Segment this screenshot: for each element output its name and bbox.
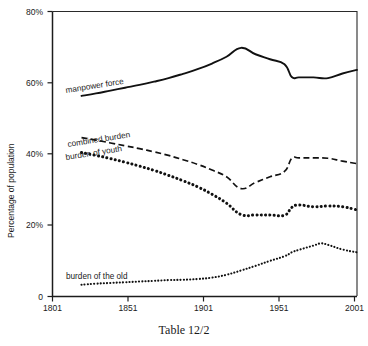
series-label-combined-burden: combined burden bbox=[67, 130, 131, 149]
figure-caption: Table 12/2 bbox=[159, 323, 210, 337]
y-axis-tick-labels: 80% 60% 40% 20% 0 bbox=[26, 7, 43, 302]
population-burden-line-chart: 80% 60% 40% 20% 0 1801 1851 1901 1951 20… bbox=[0, 0, 368, 346]
y-tick-label-60: 60% bbox=[26, 78, 43, 88]
series-path-manpower-force bbox=[82, 48, 358, 96]
x-tick-label-1801: 1801 bbox=[43, 303, 62, 313]
y-tick-label-20: 20% bbox=[26, 220, 43, 230]
series-path-burden-of-youth bbox=[82, 153, 358, 216]
series-inline-labels: manpower force combined burden burden of… bbox=[65, 77, 131, 281]
x-tick-label-2001: 2001 bbox=[345, 303, 364, 313]
x-tick-label-1951: 1951 bbox=[270, 303, 289, 313]
series-path-combined-burden bbox=[82, 138, 358, 189]
y-tick-label-40: 40% bbox=[26, 149, 43, 159]
x-tick-label-1901: 1901 bbox=[194, 303, 213, 313]
series-label-burden-of-the-old: burden of the old bbox=[66, 272, 128, 281]
series-label-manpower-force: manpower force bbox=[65, 77, 125, 95]
y-axis-title: Percentage of population bbox=[6, 143, 16, 238]
x-tick-label-1851: 1851 bbox=[119, 303, 138, 313]
y-tick-label-80: 80% bbox=[26, 7, 43, 17]
y-tick-label-0: 0 bbox=[38, 292, 43, 302]
chart-figure: 80% 60% 40% 20% 0 1801 1851 1901 1951 20… bbox=[0, 0, 368, 346]
x-axis-tick-labels: 1801 1851 1901 1951 2001 bbox=[43, 303, 364, 313]
